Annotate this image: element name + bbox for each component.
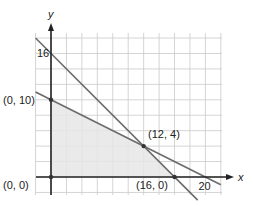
tick-label: 20 [198, 180, 210, 192]
feasible-region-graph: x y (0, 0)(0, 10)(12, 4)(16, 0) 1620 [0, 0, 253, 206]
vertex-label: (16, 0) [136, 179, 168, 191]
vertex-label: (12, 4) [148, 128, 180, 140]
vertex-dot [49, 98, 53, 102]
x-axis-arrow-icon [226, 174, 234, 180]
x-axis-label: x [237, 171, 244, 183]
vertex-dot [49, 175, 53, 179]
vertex-dot [172, 175, 176, 179]
tick-label: 16 [37, 47, 49, 59]
vertex-label: (0, 0) [3, 179, 29, 191]
vertex-dot [141, 144, 145, 148]
vertex-label: (0, 10) [3, 94, 35, 106]
y-axis-arrow-icon [48, 23, 54, 31]
y-axis-label: y [47, 8, 55, 20]
